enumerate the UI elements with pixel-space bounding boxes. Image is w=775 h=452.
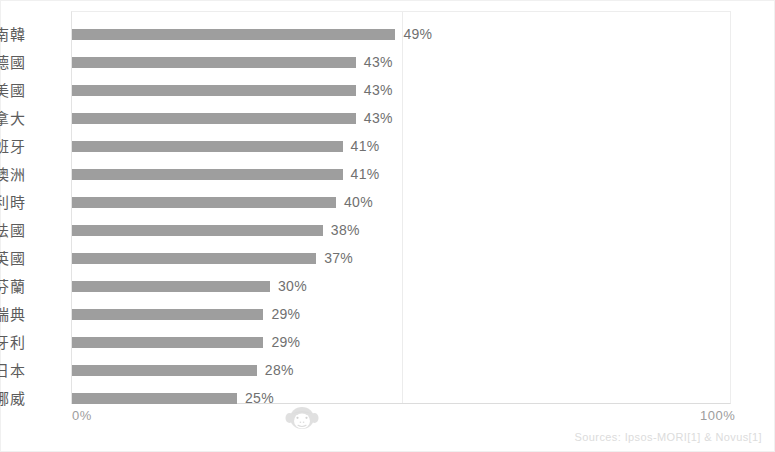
category-label: 加拿大 [0, 111, 25, 126]
bar-group: 43% [72, 76, 393, 104]
category-label: 挪威 [0, 391, 25, 406]
monkey-face-watermark [285, 405, 319, 431]
x-axis-tick-0: 0% [72, 408, 92, 423]
bar-group: 30% [72, 272, 307, 300]
bar-row: 法國38% [72, 216, 730, 244]
bar-row: 日本28% [72, 356, 730, 384]
bar-group: 29% [72, 328, 300, 356]
bar [72, 281, 270, 292]
bar-row: 瑞典29% [72, 300, 730, 328]
bar-row: 德國43% [72, 48, 730, 76]
bar-row: 加拿大43% [72, 104, 730, 132]
bar [72, 169, 343, 180]
bar-group: 38% [72, 216, 360, 244]
bar [72, 253, 316, 264]
bar-value-label: 41% [351, 138, 380, 154]
category-label: 比利時 [0, 195, 25, 210]
bar-value-label: 43% [364, 82, 393, 98]
bar [72, 225, 323, 236]
category-label: 芬蘭 [0, 279, 25, 294]
bar-value-label: 29% [271, 306, 300, 322]
bar-row: 芬蘭30% [72, 272, 730, 300]
bar-group: 28% [72, 356, 294, 384]
bar [72, 365, 257, 376]
category-label: 美國 [0, 83, 25, 98]
bar-value-label: 41% [351, 166, 380, 182]
bar-value-label: 28% [265, 362, 294, 378]
bar [72, 197, 336, 208]
bar-group: 29% [72, 300, 300, 328]
bar-value-label: 43% [364, 54, 393, 70]
bar-group: 41% [72, 160, 380, 188]
category-label: 瑞典 [0, 307, 25, 322]
category-label: 西班牙 [0, 139, 25, 154]
bar-group: 41% [72, 132, 380, 160]
bar [72, 85, 356, 96]
bar-value-label: 43% [364, 110, 393, 126]
bar-value-label: 29% [271, 334, 300, 350]
sources-note: Sources: Ipsos-MORI[1] & Novus[1] [575, 431, 762, 443]
bar [72, 29, 395, 40]
category-label: 德國 [0, 55, 25, 70]
bar [72, 393, 237, 404]
bar-group: 25% [72, 384, 274, 412]
bar-row: 澳洲41% [72, 160, 730, 188]
bar-group: 43% [72, 48, 393, 76]
bar-value-label: 38% [331, 222, 360, 238]
bar-row: 英國37% [72, 244, 730, 272]
bar-group: 37% [72, 244, 353, 272]
bar [72, 337, 263, 348]
category-label: 澳洲 [0, 167, 25, 182]
category-label: 日本 [0, 363, 25, 378]
bar-value-label: 37% [324, 250, 353, 266]
bar-value-label: 49% [403, 26, 432, 42]
bar-row: 匈牙利29% [72, 328, 730, 356]
x-axis-tick-100: 100% [700, 408, 735, 423]
bar-value-label: 30% [278, 278, 307, 294]
bar-value-label: 25% [245, 390, 274, 406]
bar [72, 141, 343, 152]
bar [72, 57, 356, 68]
bar [72, 113, 356, 124]
bar [72, 309, 263, 320]
bar-group: 40% [72, 188, 373, 216]
bar-row: 美國43% [72, 76, 730, 104]
bar-group: 43% [72, 104, 393, 132]
plot-area: 南韓49%德國43%美國43%加拿大43%西班牙41%澳洲41%比利時40%法國… [71, 11, 731, 404]
category-label: 英國 [0, 251, 25, 266]
bar-group: 49% [72, 20, 432, 48]
category-label: 匈牙利 [0, 335, 25, 350]
category-label: 南韓 [0, 27, 25, 42]
bar-row: 挪威25% [72, 384, 730, 412]
bar-row: 南韓49% [72, 20, 730, 48]
bar-row: 西班牙41% [72, 132, 730, 160]
bar-value-label: 40% [344, 194, 373, 210]
category-label: 法國 [0, 223, 25, 238]
chart-figure: 南韓49%德國43%美國43%加拿大43%西班牙41%澳洲41%比利時40%法國… [0, 0, 775, 452]
bar-row: 比利時40% [72, 188, 730, 216]
